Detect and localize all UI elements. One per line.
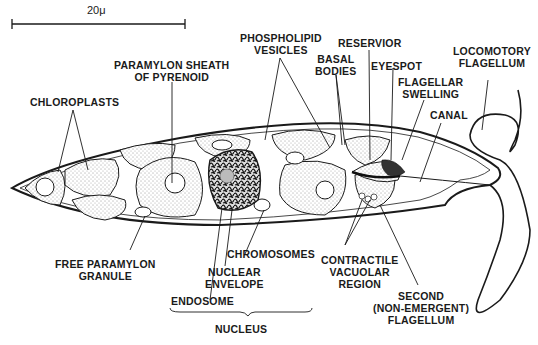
label-chloroplasts: CHLOROPLASTS <box>30 96 119 108</box>
label-free-paramylon-granule: FREE PARAMYLONGRANULE <box>55 258 156 282</box>
label-flagellar-swelling: FLAGELLARSWELLING <box>398 76 463 100</box>
label-basal-bodies: BASALBODIES <box>315 53 356 77</box>
locomotory-flagellum <box>470 90 530 313</box>
label-paramylon-sheath: PARAMYLON SHEATHOF PYRENOID <box>114 59 229 83</box>
label-second-flagellum: SECOND(NON-EMERGENT)FLAGELLUM <box>373 290 469 326</box>
label-locomotory-flagellum: LOCOMOTORYFLAGELLUM <box>453 45 531 69</box>
label-canal: CANAL <box>430 109 468 121</box>
nucleus <box>209 150 261 210</box>
label-eyespot: EYESPOT <box>371 60 422 72</box>
label-reservoir: RESERVIOR <box>338 37 401 49</box>
label-nuclear-envelope: NUCLEARENVELOPE <box>205 266 264 290</box>
label-nucleus: NUCLEUS <box>215 323 267 335</box>
label-phospholipid-vesicles: PHOSPHOLIPIDVESICLES <box>240 32 322 56</box>
label-chromosomes: CHROMOSOMES <box>227 248 315 260</box>
label-contractile-vacuolar-region: CONTRACTILEVACUOLARREGION <box>321 254 398 290</box>
label-endosome: ENDOSOME <box>171 295 234 307</box>
endosome <box>220 169 234 183</box>
scale-bar-label: 20μ <box>87 4 106 16</box>
scale-bar <box>12 19 185 29</box>
